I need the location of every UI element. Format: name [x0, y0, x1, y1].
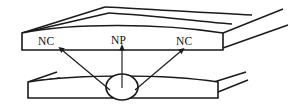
upper-slab-back-edge-right-upper: [109, 13, 232, 24]
diagram-canvas: [0, 0, 290, 107]
lower-slab-right-rail-lower: [218, 80, 248, 92]
label-np: NP: [111, 35, 126, 47]
label-nc-right: NC: [176, 36, 192, 48]
technical-diagram-figure: NC NP NC: [0, 0, 290, 107]
label-nc-left: NC: [38, 36, 54, 48]
lower-slab-right-rail-upper: [214, 72, 246, 82]
